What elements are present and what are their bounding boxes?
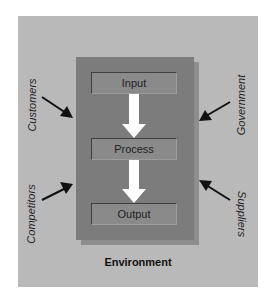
stage-process-label: Process (114, 143, 154, 155)
stage-input-label: Input (122, 77, 146, 89)
flow-arrow-down-icon (122, 160, 146, 203)
environment-label: Environment (18, 256, 258, 268)
arrow-right-down-icon (40, 95, 74, 119)
force-label-customers: Customers (26, 75, 38, 135)
flow-arrow-down-icon (122, 94, 146, 138)
arrow-left-up-icon (198, 178, 232, 202)
force-label-government: Government (235, 70, 247, 140)
stage-process: Process (91, 138, 177, 160)
force-label-suppliers: Suppliers (236, 184, 248, 244)
arrow-right-up-icon (40, 182, 74, 202)
force-label-competitors: Competitors (25, 179, 37, 249)
stage-input: Input (91, 72, 177, 94)
arrow-left-down-icon (198, 100, 232, 122)
stage-output-label: Output (117, 208, 150, 220)
stage-output: Output (91, 203, 177, 225)
